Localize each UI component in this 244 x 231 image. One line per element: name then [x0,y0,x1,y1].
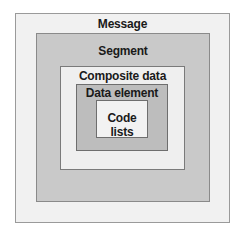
data-element-label: Data element [77,86,167,100]
message-label: Message [16,17,229,31]
segment-label: Segment [37,44,209,58]
code-lists-label: Code lists [97,111,147,139]
code-lists-box: Code lists [96,100,148,138]
